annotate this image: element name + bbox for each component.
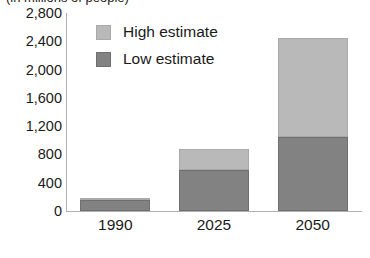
legend-swatch-low-icon bbox=[96, 52, 111, 67]
bar-segment-high-estimate bbox=[278, 38, 348, 137]
y-axis-tick-label: 1,200 bbox=[4, 119, 62, 134]
bar-group-2050 bbox=[278, 38, 348, 211]
y-axis-tick-label: 800 bbox=[4, 147, 62, 162]
legend-item-low-estimate: Low estimate bbox=[96, 51, 218, 67]
legend-item-high-estimate: High estimate bbox=[96, 24, 218, 40]
y-axis-tick-labels: 2,8002,4002,0001,6001,2008004000 bbox=[0, 0, 62, 258]
legend-swatch-high-icon bbox=[96, 25, 111, 40]
x-axis-tick-label: 2050 bbox=[263, 216, 362, 234]
x-axis-tick-label: 2025 bbox=[165, 216, 264, 234]
bar-segment-low-estimate bbox=[80, 200, 150, 211]
y-axis-tick-label: 400 bbox=[4, 175, 62, 190]
x-axis-line bbox=[66, 211, 362, 212]
stacked-bar-chart: (in millions of people) 2,8002,4002,0001… bbox=[0, 0, 370, 258]
bar-segment-low-estimate bbox=[179, 170, 249, 211]
y-axis-tick-label: 2,800 bbox=[4, 6, 62, 21]
y-axis-tick-label: 2,400 bbox=[4, 34, 62, 49]
bar-segment-low-estimate bbox=[278, 137, 348, 211]
x-axis-tick-label: 1990 bbox=[66, 216, 165, 234]
legend-label-high-estimate: High estimate bbox=[123, 24, 218, 40]
y-axis-tick-label: 0 bbox=[4, 204, 62, 219]
y-axis-tick-label: 1,600 bbox=[4, 91, 62, 106]
chart-legend: High estimate Low estimate bbox=[96, 24, 218, 67]
y-axis-tick-label: 2,000 bbox=[4, 62, 62, 77]
bar-group-2025 bbox=[179, 149, 249, 211]
bar-segment-high-estimate bbox=[179, 149, 249, 170]
legend-label-low-estimate: Low estimate bbox=[123, 51, 214, 67]
bar-group-1990 bbox=[80, 198, 150, 211]
